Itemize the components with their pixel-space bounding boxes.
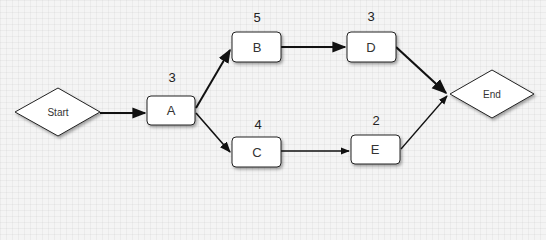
edge-e-end xyxy=(401,96,447,149)
node-e-duration: 2 xyxy=(372,113,379,128)
node-b-label: B xyxy=(253,40,262,55)
start-node[interactable]: Start xyxy=(15,88,100,136)
edge-a-b xyxy=(196,50,230,108)
node-a-duration: 3 xyxy=(168,70,175,85)
edge-d-end xyxy=(396,47,446,93)
start-label: Start xyxy=(47,107,68,118)
edge-a-c xyxy=(196,113,230,152)
end-node[interactable]: End xyxy=(450,70,534,118)
node-d[interactable]: 3 D xyxy=(347,9,396,62)
node-a-label: A xyxy=(167,103,176,118)
end-label: End xyxy=(483,89,501,100)
node-a[interactable]: 3 A xyxy=(147,70,195,125)
network-diagram: Start 3 A 5 B 3 D 4 C 2 E End xyxy=(0,0,546,182)
node-e[interactable]: 2 E xyxy=(351,113,400,164)
node-c[interactable]: 4 C xyxy=(232,117,281,167)
node-e-label: E xyxy=(371,142,380,157)
node-d-label: D xyxy=(366,40,375,55)
node-d-duration: 3 xyxy=(367,9,374,24)
node-c-duration: 4 xyxy=(254,117,261,132)
node-c-label: C xyxy=(252,145,261,160)
node-b-duration: 5 xyxy=(253,10,260,25)
node-b[interactable]: 5 B xyxy=(232,10,281,62)
